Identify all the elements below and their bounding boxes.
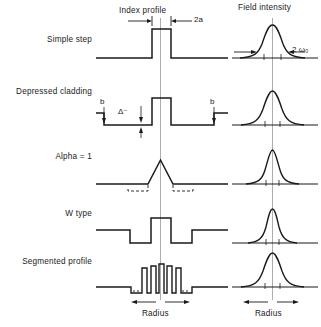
core-width-label: 2a xyxy=(194,15,203,24)
radius-label-left: Radius xyxy=(142,309,169,318)
b-right-dimension xyxy=(212,107,216,124)
index-curve-depressed-cladding xyxy=(96,98,228,125)
row-label-segmented-profile: Segmented profile xyxy=(0,257,92,266)
row-label-simple-step: Simple step xyxy=(0,35,92,44)
row-label-w-type: W type xyxy=(0,209,92,218)
b-right-label: b xyxy=(210,97,214,106)
core-width-dimension xyxy=(128,16,192,26)
row-w-type xyxy=(96,209,318,245)
row-depressed-cladding xyxy=(96,91,318,138)
row-alpha-1 xyxy=(96,150,318,191)
index-curve-simple-step xyxy=(96,29,228,58)
field-intensity-title: Field intensity xyxy=(238,3,291,12)
radius-dimension-right xyxy=(243,300,299,304)
delta-minus-label: Δ⁻ xyxy=(118,107,128,116)
radius-dimension-left xyxy=(131,300,190,304)
index-curve-w-type xyxy=(96,218,228,243)
index-profile-title: Index profile xyxy=(119,6,166,15)
fiber-profile-figure xyxy=(0,0,321,327)
b-left-label: b xyxy=(100,97,104,106)
index-dashed-right-alpha-1 xyxy=(173,185,193,191)
b-left-dimension xyxy=(102,107,106,124)
mode-field-width-label: 2 ω₀ xyxy=(292,45,308,54)
row-segmented-profile xyxy=(96,253,318,304)
delta-minus-dimension xyxy=(139,106,143,138)
index-dashed-left-alpha-1 xyxy=(128,185,148,191)
index-curve-segmented-profile xyxy=(96,264,228,293)
row-label-alpha-1: Alpha = 1 xyxy=(0,152,92,161)
radius-label-right: Radius xyxy=(255,309,282,318)
row-simple-step xyxy=(96,16,318,60)
index-curve-alpha-1 xyxy=(96,160,228,184)
row-label-depressed-cladding: Depressed cladding xyxy=(0,87,92,96)
